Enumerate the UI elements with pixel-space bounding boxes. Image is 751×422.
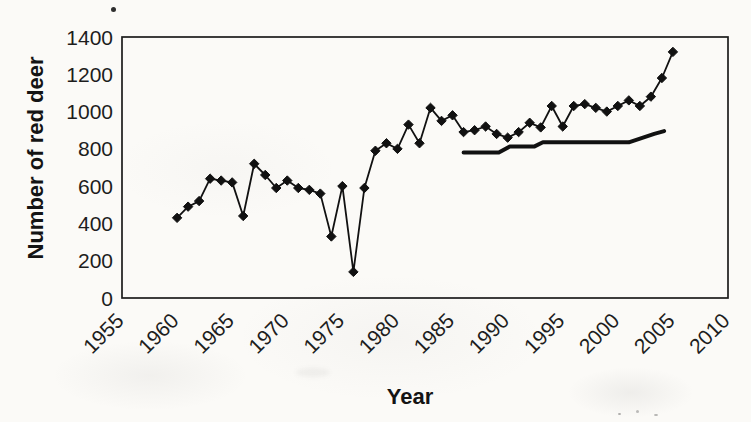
data-point-1982: [415, 139, 424, 148]
x-tick-label-1975: 1975: [299, 309, 348, 358]
scanned-figure-page: 0200400600800100012001400 19551960196519…: [0, 0, 751, 422]
x-tick-label-2005: 2005: [629, 309, 678, 358]
data-point-2000: [613, 101, 622, 110]
y-axis-title: Number of red deer: [23, 56, 48, 259]
scan-speck: [111, 7, 116, 12]
plot-area-frame: [122, 37, 728, 298]
x-tick-label-1985: 1985: [409, 309, 458, 358]
x-tick-label-1995: 1995: [519, 309, 568, 358]
y-tick-label-200: 200: [78, 249, 113, 272]
scan-speck: [654, 414, 658, 416]
data-point-1975: [338, 181, 347, 190]
y-tick-label-1000: 1000: [66, 100, 113, 123]
y-tick-label-800: 800: [78, 137, 113, 160]
data-point-1962: [194, 196, 203, 205]
data-point-1996: [569, 101, 578, 110]
data-point-1974: [327, 232, 336, 241]
data-point-1973: [316, 189, 325, 198]
data-series: [172, 47, 677, 276]
x-tick-label-2000: 2000: [574, 309, 623, 358]
data-point-1987: [470, 126, 479, 135]
x-axis-tick-labels: 1955196019651970197519801985199019952000…: [79, 309, 734, 358]
data-point-1977: [360, 183, 369, 192]
data-point-1963: [205, 174, 214, 183]
y-tick-label-400: 400: [78, 212, 113, 235]
data-point-1999: [602, 107, 611, 116]
scan-smudge: [296, 368, 330, 377]
y-tick-label-1200: 1200: [66, 63, 113, 86]
y-tick-label-1400: 1400: [66, 26, 113, 49]
data-point-1985: [448, 111, 457, 120]
red-deer-population-chart: 0200400600800100012001400 19551960196519…: [0, 0, 751, 422]
data-point-1995: [558, 122, 567, 131]
data-point-1994: [547, 101, 556, 110]
data-point-1964: [216, 176, 225, 185]
x-tick-label-1960: 1960: [134, 309, 183, 358]
y-tick-label-0: 0: [101, 287, 113, 310]
data-point-1981: [404, 120, 413, 129]
data-point-1990: [503, 133, 512, 142]
y-axis-tick-labels: 0200400600800100012001400: [66, 26, 113, 310]
data-point-1998: [591, 103, 600, 112]
scan-speck: [636, 410, 639, 413]
data-point-2004: [657, 73, 666, 82]
x-tick-label-1990: 1990: [464, 309, 513, 358]
y-tick-label-600: 600: [78, 175, 113, 198]
x-axis-title: Year: [387, 384, 434, 409]
data-point-2001: [624, 96, 633, 105]
data-point-1966: [239, 211, 248, 220]
x-tick-label-1965: 1965: [189, 309, 238, 358]
data-point-1965: [227, 178, 236, 187]
data-point-1972: [305, 185, 314, 194]
x-tick-label-2010: 2010: [685, 309, 734, 358]
x-tick-label-1980: 1980: [354, 309, 403, 358]
data-point-1980: [393, 144, 402, 153]
x-tick-label-1970: 1970: [244, 309, 293, 358]
data-point-1993: [536, 123, 545, 132]
scan-speck: [618, 413, 621, 415]
data-point-2005: [668, 47, 677, 56]
data-point-1976: [349, 267, 358, 276]
data-point-1986: [459, 127, 468, 136]
data-point-1997: [580, 99, 589, 108]
x-tick-label-1955: 1955: [79, 309, 128, 358]
